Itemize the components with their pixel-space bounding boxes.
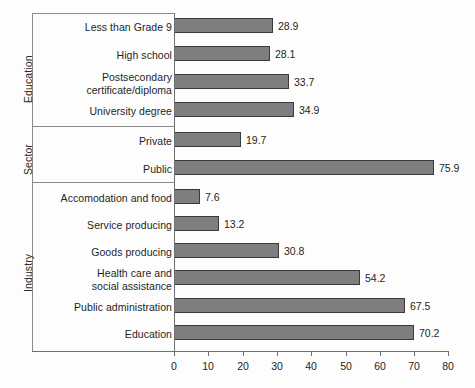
category-label-goods-producing: Goods producing: [91, 246, 172, 259]
category-label-public: Public: [143, 163, 172, 176]
category-label-accomodation-and-food: Accomodation and food: [61, 192, 172, 205]
bar-public-administration: [174, 298, 405, 313]
bar-value-public: 75.9: [439, 163, 459, 174]
group-label-sector-text: Sector: [22, 144, 34, 175]
category-label-university-degree: University degree: [89, 105, 172, 118]
x-tick-0: [174, 351, 175, 356]
bar-value-accomodation-and-food: 7.6: [205, 192, 220, 203]
bar-high-school: [174, 46, 270, 61]
x-axis-line: [32, 351, 449, 352]
horizontal-bar-chart: Education Sector Industry Less than Grad…: [0, 0, 475, 388]
group-label-education-text: Education: [22, 55, 34, 103]
x-axis-zero-baseline: [174, 13, 175, 351]
bar-service-producing: [174, 216, 219, 231]
category-label-health-care-and-social-assistance: Health care and social assistance: [92, 267, 172, 292]
category-label-postsecondary-certificate-diploma: Postsecondary certificate/diploma: [86, 71, 172, 96]
bar-value-education-industry: 70.2: [419, 328, 439, 339]
x-tick-50: [346, 351, 347, 356]
bar-value-less-than-grade-9: 28.9: [278, 21, 298, 32]
category-label-less-than-grade-9: Less than Grade 9: [85, 21, 172, 34]
x-tick-label-10: 10: [202, 361, 214, 372]
x-tick-label-60: 60: [374, 361, 386, 372]
bar-public: [174, 160, 434, 175]
bar-education-industry: [174, 325, 414, 340]
bar-value-university-degree: 34.9: [299, 105, 319, 116]
bar-university-degree: [174, 102, 294, 117]
group-rule-sector-industry: [32, 182, 174, 183]
bar-value-health-care-and-social-assistance: 54.2: [365, 273, 385, 284]
x-tick-10: [208, 351, 209, 356]
x-tick-label-30: 30: [271, 361, 283, 372]
x-tick-70: [414, 351, 415, 356]
x-tick-label-0: 0: [171, 361, 177, 372]
bar-accomodation-and-food: [174, 189, 200, 204]
x-tick-40: [311, 351, 312, 356]
category-label-high-school: High school: [117, 49, 172, 62]
bar-private: [174, 132, 241, 147]
group-label-industry-text: Industry: [22, 254, 34, 292]
group-rule-top: [32, 13, 174, 14]
bar-value-postsecondary-certificate-diploma: 33.7: [294, 77, 314, 88]
x-tick-label-80: 80: [442, 361, 454, 372]
category-label-service-producing: Service producing: [87, 219, 172, 232]
bar-value-public-administration: 67.5: [410, 301, 430, 312]
category-label-public-administration: Public administration: [74, 301, 172, 314]
group-rule-education-sector: [32, 126, 174, 127]
bar-health-care-and-social-assistance: [174, 270, 360, 285]
category-label-private: Private: [139, 135, 172, 148]
bar-postsecondary-certificate-diploma: [174, 74, 289, 89]
x-tick-60: [380, 351, 381, 356]
x-tick-label-20: 20: [237, 361, 249, 372]
bar-value-goods-producing: 30.8: [284, 246, 304, 257]
x-tick-label-50: 50: [340, 361, 352, 372]
x-tick-label-70: 70: [408, 361, 420, 372]
bar-value-high-school: 28.1: [275, 49, 295, 60]
x-tick-20: [243, 351, 244, 356]
x-tick-80: [448, 351, 449, 356]
bar-less-than-grade-9: [174, 18, 273, 33]
x-tick-30: [277, 351, 278, 356]
bar-value-private: 19.7: [246, 135, 266, 146]
bar-value-service-producing: 13.2: [224, 219, 244, 230]
category-label-education-industry: Education: [125, 328, 172, 341]
bar-goods-producing: [174, 243, 279, 258]
x-tick-label-40: 40: [305, 361, 317, 372]
